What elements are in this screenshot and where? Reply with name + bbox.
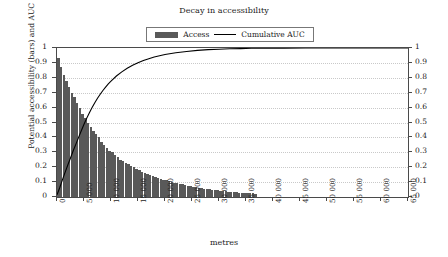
y-axis-tick-label: 0 <box>21 192 47 200</box>
x-axis-tick <box>407 197 408 201</box>
y-axis-tick <box>52 92 56 93</box>
y-axis-right-tick <box>408 92 412 93</box>
x-axis-tick-label: 60 000 <box>383 178 390 203</box>
y-axis-tick-label: 0.2 <box>21 162 47 170</box>
y-axis-tick-label: 0.6 <box>21 103 47 111</box>
x-axis-tick-label: 65 000 <box>410 178 417 203</box>
x-axis-tick-label: 10 000 <box>113 178 120 203</box>
y-axis-right-tick <box>408 47 412 48</box>
y-axis-right-tick <box>408 136 412 137</box>
x-axis-tick-label: 40 000 <box>275 178 282 203</box>
y-axis-right-tick-label: 0.3 <box>415 147 441 155</box>
y-axis-right-tick <box>408 151 412 152</box>
y-axis-tick <box>52 77 56 78</box>
y-axis-right-tick-label: 0 <box>415 192 441 200</box>
x-axis-tick <box>245 197 246 201</box>
legend-bar-swatch-icon <box>155 32 178 38</box>
y-axis-right-tick <box>408 62 412 63</box>
x-axis-tick <box>380 197 381 201</box>
chart-legend: Access Cumulative AUC <box>146 27 314 42</box>
y-axis-right-tick-label: 0.6 <box>415 103 441 111</box>
y-axis-tick-label: 0.1 <box>21 177 47 185</box>
line-series-cumulative-auc <box>57 48 408 197</box>
x-axis-tick <box>164 197 165 201</box>
y-axis-tick-label: 0.3 <box>21 147 47 155</box>
y-axis-tick-label: 0.4 <box>21 132 47 140</box>
y-axis-right-tick-label: 0.8 <box>415 73 441 81</box>
y-axis-tick-label: 0.8 <box>21 73 47 81</box>
x-axis-tick-label: 55 000 <box>356 178 363 203</box>
x-axis-tick <box>272 197 273 201</box>
y-axis-right-tick-label: 1 <box>415 43 441 51</box>
x-axis-tick <box>56 197 57 201</box>
chart-figure: Decay in accessibility Access Cumulative… <box>0 0 448 257</box>
y-axis-right-tick-label: 0.1 <box>415 177 441 185</box>
x-axis-tick <box>326 197 327 201</box>
legend-label-cumulative-auc: Cumulative AUC <box>241 30 304 39</box>
x-axis-tick-label: 50 000 <box>329 178 336 203</box>
y-axis-right-tick <box>408 77 412 78</box>
x-axis-tick <box>83 197 84 201</box>
y-axis-right-tick <box>408 166 412 167</box>
y-axis-right-tick-label: 0.7 <box>415 88 441 96</box>
y-axis-tick <box>52 122 56 123</box>
y-axis-right-tick-label: 0.4 <box>415 132 441 140</box>
y-axis-tick <box>52 166 56 167</box>
x-axis-tick-label: 15 000 <box>140 178 147 203</box>
x-axis-tick-label: 30 000 <box>221 178 228 203</box>
x-axis-tick-label: 45 000 <box>302 178 309 203</box>
y-axis-tick <box>52 62 56 63</box>
y-axis-tick <box>52 47 56 48</box>
y-axis-right-tick <box>408 122 412 123</box>
y-axis-tick <box>52 136 56 137</box>
x-axis-title: metres <box>0 238 448 247</box>
x-axis-tick <box>110 197 111 201</box>
x-axis-tick-label: 20 000 <box>167 178 174 203</box>
y-axis-right-tick <box>408 107 412 108</box>
y-axis-tick-label: 1 <box>21 43 47 51</box>
y-axis-right-tick-label: 0.9 <box>415 58 441 66</box>
plot-area <box>56 47 409 198</box>
y-axis-tick-label: 0.9 <box>21 58 47 66</box>
y-axis-tick-label: 0.7 <box>21 88 47 96</box>
chart-title: Decay in accessibility <box>0 6 448 15</box>
x-axis-tick <box>191 197 192 201</box>
x-axis-tick-label: 25 000 <box>194 178 201 203</box>
y-axis-tick <box>52 107 56 108</box>
x-axis-tick <box>218 197 219 201</box>
y-axis-tick <box>52 151 56 152</box>
y-axis-tick <box>52 181 56 182</box>
x-axis-tick <box>353 197 354 201</box>
x-axis-tick <box>299 197 300 201</box>
x-axis-tick-label: 5 000 <box>86 182 93 203</box>
x-axis-tick-label: 0 <box>59 198 66 203</box>
x-axis-tick-label: 35 000 <box>248 178 255 203</box>
x-axis-tick <box>137 197 138 201</box>
y-axis-right-tick-label: 0.2 <box>415 162 441 170</box>
y-axis-right-tick-label: 0.5 <box>415 118 441 126</box>
y-axis-tick-label: 0.5 <box>21 118 47 126</box>
legend-label-access: Access <box>183 30 209 39</box>
legend-line-swatch-icon <box>214 34 236 35</box>
